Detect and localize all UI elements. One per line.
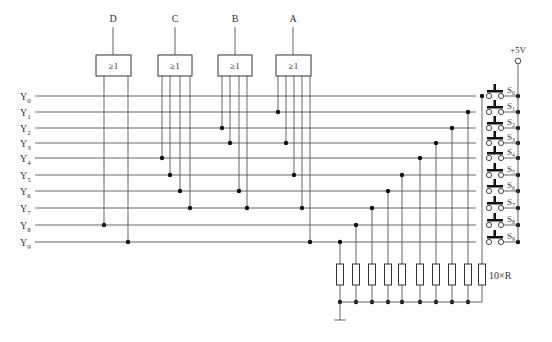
pulldown-junction — [400, 173, 404, 177]
resistor — [353, 264, 360, 285]
input-line-label-y2: Y2 — [20, 123, 31, 137]
resistor-label: 10×R — [489, 270, 512, 281]
input-line-label-y0: Y0 — [20, 91, 31, 105]
switch-contact-left — [486, 222, 491, 227]
gate-input-junction — [126, 240, 130, 244]
switch-label-s0: S0 — [507, 85, 515, 96]
supply-terminal — [515, 58, 521, 64]
circuit-canvas: Y0Y1Y2Y3Y4Y5Y6Y7Y8Y9D≥1C≥1B≥1A≥110×RS0S1… — [0, 0, 552, 342]
switch-contact-right — [498, 188, 503, 193]
switch-contact-right — [498, 172, 503, 177]
switch-contact-right — [498, 140, 503, 145]
switch-contact-right — [498, 222, 503, 227]
switch-contact-right — [498, 239, 503, 244]
gate-input-junction — [160, 156, 164, 160]
input-line-label-y6: Y6 — [20, 186, 31, 200]
gate-output-label-b: B — [232, 13, 239, 24]
input-line-label-y8: Y8 — [20, 220, 31, 234]
switch-actuator-stem — [494, 196, 497, 203]
gate-input-junction — [300, 206, 304, 210]
pulldown-junction — [450, 126, 454, 130]
resistor — [399, 264, 406, 285]
gate-input-junction — [178, 189, 182, 193]
switch-actuator-stem — [494, 213, 497, 220]
switch-label-s4: S4 — [507, 147, 515, 158]
gate-input-junction — [228, 141, 232, 145]
switch-actuator-stem — [494, 146, 497, 153]
gate-input-junction — [308, 240, 312, 244]
switch-label-s9: S9 — [507, 231, 515, 242]
switch-actuator-stem — [494, 116, 497, 123]
switch-actuator-stem — [494, 163, 497, 170]
encoder-circuit-diagram: Y0Y1Y2Y3Y4Y5Y6Y7Y8Y9D≥1C≥1B≥1A≥110×RS0S1… — [0, 0, 552, 342]
switch-label-s3: S3 — [507, 132, 515, 143]
input-line-label-y4: Y4 — [20, 153, 31, 167]
switch-actuator-stem — [494, 100, 497, 107]
gate-input-junction — [276, 110, 280, 114]
switch-actuator-stem — [494, 179, 497, 186]
pulldown-junction — [338, 240, 342, 244]
switch-contact-right — [498, 93, 503, 98]
switch-contact-left — [486, 93, 491, 98]
resistor — [369, 264, 376, 285]
switch-contact-left — [486, 140, 491, 145]
switch-actuator-stem — [494, 131, 497, 138]
gate-output-label-d: D — [109, 13, 116, 24]
input-line-label-y1: Y1 — [20, 107, 31, 121]
gate-symbol-b: ≥1 — [230, 61, 239, 71]
gate-input-junction — [292, 173, 296, 177]
switch-label-s8: S8 — [507, 214, 515, 225]
resistor — [479, 264, 486, 285]
pulldown-junction — [466, 110, 470, 114]
pulldown-junction — [386, 189, 390, 193]
resistor — [385, 264, 392, 285]
switch-label-s5: S5 — [507, 164, 515, 175]
gate-symbol-c: ≥1 — [170, 61, 179, 71]
switch-contact-left — [486, 109, 491, 114]
pulldown-junction — [418, 156, 422, 160]
switch-label-s2: S2 — [507, 117, 515, 128]
pulldown-junction — [434, 141, 438, 145]
switch-contact-left — [486, 172, 491, 177]
switch-label-s6: S6 — [507, 180, 515, 191]
switch-label-s7: S7 — [507, 197, 515, 208]
supply-label: +5V — [510, 45, 527, 55]
gate-input-junction — [284, 141, 288, 145]
switch-contact-right — [498, 125, 503, 130]
switch-contact-left — [486, 188, 491, 193]
gate-symbol-a: ≥1 — [289, 61, 298, 71]
switch-contact-left — [486, 125, 491, 130]
gate-output-label-a: A — [289, 13, 297, 24]
gate-input-junction — [188, 206, 192, 210]
gate-input-junction — [168, 173, 172, 177]
gate-input-junction — [237, 189, 241, 193]
gate-input-junction — [102, 223, 106, 227]
resistor — [337, 264, 344, 285]
switch-label-s1: S1 — [507, 101, 515, 112]
gate-input-junction — [220, 126, 224, 130]
input-line-label-y5: Y5 — [20, 170, 31, 184]
gate-input-junction — [245, 206, 249, 210]
gate-output-label-c: C — [172, 13, 179, 24]
switch-contact-left — [486, 155, 491, 160]
gate-symbol-d: ≥1 — [109, 61, 118, 71]
pulldown-junction — [370, 206, 374, 210]
pulldown-junction — [480, 94, 484, 98]
switch-contact-right — [498, 109, 503, 114]
input-line-label-y3: Y3 — [20, 138, 31, 152]
input-line-label-y7: Y7 — [20, 203, 31, 217]
resistor — [465, 264, 472, 285]
switch-actuator-stem — [494, 84, 497, 91]
pulldown-junction — [354, 223, 358, 227]
input-line-label-y9: Y9 — [20, 237, 31, 251]
switch-actuator-stem — [494, 230, 497, 237]
switch-contact-left — [486, 205, 491, 210]
resistor — [433, 264, 440, 285]
switch-contact-right — [498, 155, 503, 160]
switch-contact-left — [486, 239, 491, 244]
switch-contact-right — [498, 205, 503, 210]
resistor — [449, 264, 456, 285]
resistor — [417, 264, 424, 285]
